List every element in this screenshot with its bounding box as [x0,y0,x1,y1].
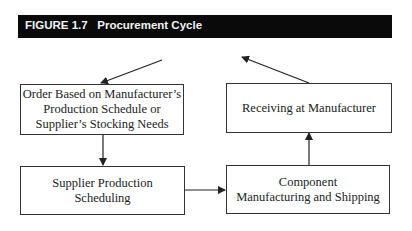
node-order-line-1: Order Based on Manufacturer’s [23,87,181,102]
node-supplier-line-1: Supplier Production [52,176,152,191]
node-component-manufacturing: Component Manufacturing and Shipping [226,165,390,214]
node-supplier-line-2: Scheduling [52,191,152,206]
node-component-line-2: Manufacturing and Shipping [236,190,380,205]
node-order: Order Based on Manufacturer’s Production… [20,84,184,135]
arrow-receiving-to-header [242,57,309,83]
node-receiving-line-1: Receiving at Manufacturer [242,101,376,116]
node-supplier-scheduling: Supplier Production Scheduling [20,166,185,215]
node-order-line-3: Supplier’s Stocking Needs [23,117,181,132]
node-receiving: Receiving at Manufacturer [226,83,392,133]
node-component-line-1: Component [236,175,380,190]
arrow-header-to-order [101,60,162,83]
node-order-line-2: Production Schedule or [23,102,181,117]
